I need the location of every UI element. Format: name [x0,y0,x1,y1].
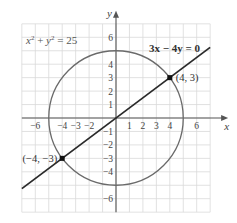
y-tick-label: −1 [103,127,113,137]
circle-equation-label: x2 + y2 = 25 [25,34,78,46]
y-tick-label: 2 [108,87,113,97]
x-tick-label: −3 [71,121,81,131]
x-tick-label: 3 [154,121,159,131]
intersection-point-marker [167,75,172,80]
chart-figure: x y −6−4−3−21234664321−1−2−3−4−6 (4, 3)(… [0,0,237,223]
x-tick-label: 4 [167,121,172,131]
intersection-point-label: (4, 3) [176,72,199,84]
y-tick-label: 1 [108,100,113,110]
x-tick-label: −6 [30,121,40,131]
y-tick-label: −2 [103,140,113,150]
y-tick-label: −4 [103,167,113,177]
line-equation-label: 3x − 4y = 0 [149,42,201,54]
x-tick-label: −4 [57,121,67,131]
y-tick-label: 6 [108,33,113,43]
y-tick-label: 4 [108,60,113,70]
x-tick-label: −2 [84,121,94,131]
x-tick-label: 6 [194,121,199,131]
x-axis-label: x [223,120,229,132]
y-axis-label: y [106,7,112,19]
intersection-point-label: (−4, −3) [23,153,58,165]
y-tick-label: −3 [103,154,113,164]
intersection-point-marker [60,156,65,161]
y-tick-label: 3 [108,73,113,83]
y-axis-arrow-icon [113,11,119,18]
x-tick-label: 2 [141,121,146,131]
x-tick-label: 1 [127,121,132,131]
y-tick-label: −6 [103,194,113,204]
